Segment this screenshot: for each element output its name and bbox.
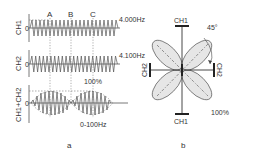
sum-modulation: 0-100Hz	[80, 121, 107, 128]
sum-label: CH1+CH2	[14, 88, 23, 122]
ch1-bottom-label: CH1	[174, 118, 188, 125]
ch1-frequency: 4.000Hz	[119, 16, 146, 23]
sum-amplitude: 100%	[84, 78, 102, 85]
ch2-label: CH2	[14, 56, 23, 71]
sum-zero: 0	[25, 100, 29, 107]
ch1-top-label: CH1	[174, 17, 188, 24]
marker-b-label: B	[68, 10, 73, 19]
ch2-left-plate	[149, 63, 151, 77]
diagram-canvas: A B C 4.000Hz 4.100Hz 100% 0-100Hz 0 0 0…	[0, 0, 269, 155]
amplitude-label: 100%	[211, 109, 229, 116]
marker-c-label: C	[90, 10, 96, 19]
panel-b: CH1 CH1 CH2 CH2 45° 100% b	[141, 17, 229, 150]
ch1-bottom-plate	[175, 113, 189, 115]
ch2-zero: 0	[25, 61, 29, 68]
marker-a-label: A	[47, 10, 53, 19]
ch2-right-label: CH2	[216, 63, 223, 77]
ch2-frequency: 4.100Hz	[119, 52, 146, 59]
ch2-left-label: CH2	[141, 63, 148, 77]
angle-label: 45°	[207, 24, 218, 31]
ch2-right-plate	[213, 63, 215, 77]
panel-b-caption: b	[181, 141, 186, 150]
panel-a: A B C 4.000Hz 4.100Hz 100% 0-100Hz 0 0 0…	[14, 10, 146, 150]
ch1-zero: 0	[25, 25, 29, 32]
panel-a-caption: a	[67, 141, 72, 150]
ch1-label: CH1	[14, 20, 23, 35]
ch1-top-plate	[175, 25, 189, 27]
